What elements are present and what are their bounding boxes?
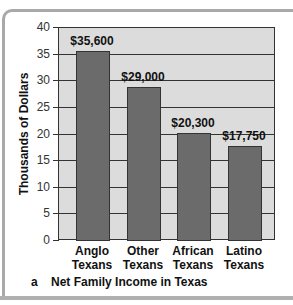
y-tick xyxy=(53,187,59,188)
bar-value-label: $29,000 xyxy=(108,70,178,84)
y-tick-label: 30 xyxy=(28,73,50,87)
bar xyxy=(228,146,262,241)
y-tick-label: 35 xyxy=(28,47,50,61)
y-tick xyxy=(53,240,59,241)
y-tick-label: 25 xyxy=(28,100,50,114)
y-tick xyxy=(53,134,59,135)
y-tick xyxy=(53,107,59,108)
y-tick-label: 10 xyxy=(28,180,50,194)
panel-letter: a xyxy=(31,275,38,289)
y-tick xyxy=(53,213,59,214)
y-tick-label: 5 xyxy=(28,206,50,220)
y-tick-label: 15 xyxy=(28,153,50,167)
x-category-label-line: Latino xyxy=(214,244,274,258)
x-category-label-line: Texans xyxy=(214,258,274,272)
bar xyxy=(177,133,211,241)
y-tick xyxy=(53,160,59,161)
y-tick xyxy=(53,54,59,55)
bar xyxy=(127,87,161,241)
bar-value-label: $17,750 xyxy=(209,129,279,143)
chart-caption: a Net Family Income in Texas xyxy=(31,275,208,289)
chart-title: Net Family Income in Texas xyxy=(51,275,208,289)
y-tick xyxy=(53,27,59,28)
y-tick-label: 40 xyxy=(28,20,50,34)
frame-bottom-bar xyxy=(0,296,293,300)
y-tick xyxy=(53,80,59,81)
bar-value-label: $20,300 xyxy=(158,116,228,130)
y-tick-label: 20 xyxy=(28,127,50,141)
bar xyxy=(76,51,110,241)
y-tick-label: 0 xyxy=(28,233,50,247)
bar-value-label: $35,600 xyxy=(57,34,127,48)
x-category-label: LatinoTexans xyxy=(214,244,274,272)
